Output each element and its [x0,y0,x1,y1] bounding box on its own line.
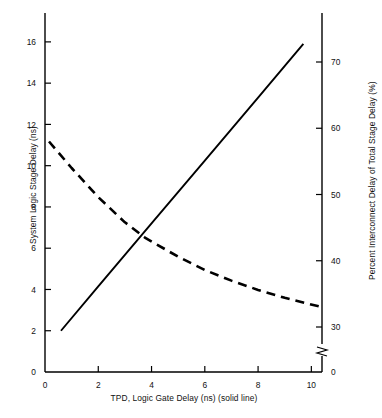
x-axis-tick-label: 0 [43,380,48,390]
ticks-group: 0246810121416024681030405060700 [27,37,341,390]
x-axis-tick-label: 2 [96,380,101,390]
y-axis-right-tick-label: 30 [331,322,341,332]
y-axis-left-title: System Logic Stage Delay (ns) [28,90,38,280]
chart-figure: 0246810121416024681030405060700 System L… [0,0,382,418]
x-axis-tick-label: 4 [149,380,154,390]
series-line-solid [61,44,303,331]
y-axis-right-tick-label: 50 [331,190,341,200]
x-axis-tick-label: 10 [307,380,317,390]
chart-plot-area: 0246810121416024681030405060700 [0,0,382,418]
series-line-dashed [49,142,322,308]
y-axis-left-tick-label: 4 [31,285,36,295]
y-axis-left-tick-label: 0 [31,367,36,377]
x-axis-tick-label: 8 [256,380,261,390]
y-axis-right-title: Percent Interconnect Delay of Total Stag… [367,90,377,280]
x-axis-title: TPD, Logic Gate Delay (ns) (solid line) [45,393,323,403]
y-axis-right-tick-label: 40 [331,256,341,266]
y-axis-right-zero-label: 0 [331,367,336,377]
y-axis-left-tick-label: 2 [31,326,36,336]
y-axis-right-tick-label: 70 [331,57,341,67]
series-group [49,44,322,331]
y-axis-right-tick-label: 60 [331,123,341,133]
y-axis-left-tick-label: 16 [27,37,37,47]
axis-break-icon [317,347,327,356]
x-axis-tick-label: 6 [202,380,207,390]
y-axis-left-tick-label: 14 [27,78,37,88]
